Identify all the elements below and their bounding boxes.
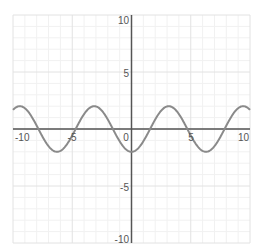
x-tick-label-0: 0	[123, 132, 129, 143]
function-graph: -10 -5 0 5 10 10 5 -5 -10	[0, 0, 259, 252]
x-tick-label-10: 10	[238, 132, 250, 143]
x-tick-label-neg10: -10	[15, 132, 30, 143]
y-tick-label-neg5: -5	[120, 182, 129, 193]
y-tick-label-neg10: -10	[115, 234, 130, 245]
x-tick-label-5: 5	[188, 132, 194, 143]
x-tick-label-neg5: -5	[68, 132, 77, 143]
y-tick-label-10: 10	[118, 15, 130, 26]
y-tick-label-5: 5	[123, 68, 129, 79]
